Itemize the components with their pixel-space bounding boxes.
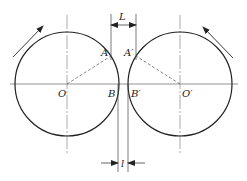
label-O: O [58,88,66,99]
label-B: B [107,88,115,99]
radius-o-a [67,56,111,84]
roll-gap-diagram: L A A′ O B B′ O′ l [0,0,247,181]
right-roll-rotation-arrow-icon [203,27,233,58]
label-O-prime: O′ [182,88,193,99]
label-A: A [100,47,108,58]
label-B-prime: B′ [130,88,141,99]
label-l: l [121,158,124,169]
label-L: L [118,11,126,22]
radius-o-prime-a-prime [136,56,180,84]
label-A-prime: A′ [123,47,134,58]
left-roll-rotation-arrow-icon [13,26,43,57]
